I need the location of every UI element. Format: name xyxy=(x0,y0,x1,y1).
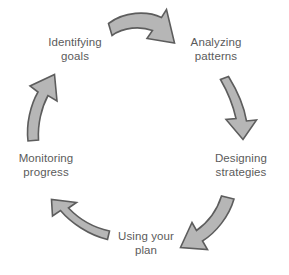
stage-label-analyzing-patterns: Analyzing patterns xyxy=(174,36,258,63)
stage-label-monitoring-progress: Monitoring progress xyxy=(3,152,89,179)
arrow-bottom-left-icon xyxy=(52,200,110,240)
arrow-bottom-right-icon xyxy=(181,196,235,250)
arrow-top-icon xyxy=(109,10,175,44)
stage-label-using-your-plan: Using your plan xyxy=(106,230,186,257)
cycle-diagram: Identifying goals Analyzing patterns Des… xyxy=(0,0,289,275)
stage-label-identifying-goals: Identifying goals xyxy=(33,36,117,63)
arrow-right-icon xyxy=(221,77,257,140)
arrow-left-icon xyxy=(28,75,57,142)
stage-label-designing-strategies: Designing strategies xyxy=(198,152,284,179)
